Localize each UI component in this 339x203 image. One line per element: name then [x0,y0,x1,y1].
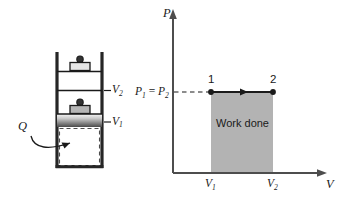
work-done-label-text: Work done [216,117,269,129]
volume-final-label-text: V [112,83,119,95]
pressure-axis-label: P [163,7,171,20]
cylinder-svg [0,0,160,203]
piston-lower-body [57,114,102,127]
weight-top-knob [77,56,83,62]
state-label-2: 2 [270,74,276,86]
pressure-axis-label-text: P [163,6,171,20]
pv-diagram: P V P1 = P2 1 2 Work done V1 V2 [160,0,339,203]
volume-final-label-sub: 2 [119,89,123,98]
weight-bottom-block [70,106,90,114]
state-label-1: 1 [208,74,214,86]
volume-axis-arrowhead [317,169,327,177]
x-tick-label-v1: V1 [205,178,216,190]
pressure-value-label: P1 = P2 [135,86,169,98]
x-tick-label-v2-sub: 2 [274,183,278,192]
volume-initial-label-sub: 1 [119,120,123,129]
work-done-area [211,92,273,173]
weight-bottom-knob [77,99,83,105]
volume-axis-label: V [326,178,334,191]
pressure-value-label-sub2: 2 [165,91,169,100]
pressure-value-label-sub1: 1 [142,91,146,100]
pressure-value-label-p1: P [135,85,142,97]
figure-canvas: Q V2 V1 [0,0,339,203]
piston-cylinder-diagram: Q V2 V1 [0,0,160,203]
heat-label: Q [18,120,27,133]
volume-initial-label: V1 [112,116,123,128]
volume-final-label: V2 [112,84,123,96]
weight-top-block [70,63,90,71]
pressure-value-label-equals: = [146,85,158,97]
state-point-2 [270,89,276,95]
state-label-2-text: 2 [270,73,276,85]
volume-initial-label-text: V [112,115,119,127]
volume-axis-label-text: V [326,177,334,191]
x-tick-label-v1-sub: 1 [212,183,216,192]
work-done-label: Work done [216,118,269,129]
x-tick-label-v2-text: V [267,177,274,189]
x-tick-label-v2: V2 [267,178,278,190]
x-tick-label-v1-text: V [205,177,212,189]
pv-diagram-svg [160,0,339,203]
heat-label-text: Q [18,119,27,133]
state-label-1-text: 1 [208,73,214,85]
state-point-1 [208,89,214,95]
